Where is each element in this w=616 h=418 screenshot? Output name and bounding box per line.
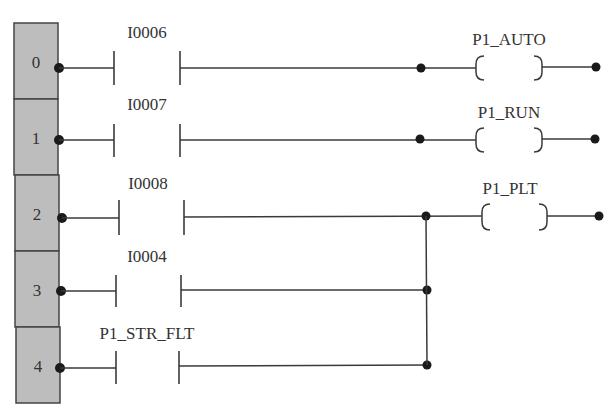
- rung-0: I0006 P1_AUTO: [54, 23, 601, 85]
- rung-number-1: 1: [32, 129, 41, 148]
- output-node-2: [595, 212, 604, 221]
- rung-number-4: 4: [34, 357, 43, 376]
- output-node-0: [592, 63, 601, 72]
- coil-label-0: P1_AUTO: [472, 30, 545, 49]
- junction-node-1: [416, 135, 425, 144]
- coil-2-right: [539, 204, 547, 230]
- rung-number-0: 0: [32, 53, 41, 72]
- parallel-branch-line: [426, 216, 427, 365]
- contact-label-0: I0006: [127, 23, 167, 42]
- contact-label-4: P1_STR_FLT: [100, 324, 195, 343]
- coil-0-left: [476, 56, 484, 80]
- contact-label-2: I0008: [128, 174, 168, 193]
- coil-2-left: [482, 204, 490, 230]
- contact-label-3: I0004: [127, 247, 167, 266]
- coil-label-1: P1_RUN: [478, 103, 540, 122]
- rung-4: P1_STR_FLT: [55, 324, 432, 384]
- rung-number-2: 2: [33, 205, 42, 224]
- junction-node-0: [417, 64, 426, 73]
- rung-2: I0008 P1_PLT: [57, 174, 604, 235]
- coil-0-right: [534, 56, 542, 80]
- coil-label-2: P1_PLT: [482, 179, 538, 198]
- ladder-diagram: 0 1 2 3 4 I0006 P1_AUTO I0007 P1_RUN: [0, 0, 616, 418]
- rung-1: I0007 P1_RUN: [54, 95, 600, 157]
- coil-1-left: [476, 128, 484, 152]
- left-power-rail: 0 1 2 3 4: [14, 23, 60, 403]
- output-node-1: [591, 135, 600, 144]
- rung-3: I0004: [56, 247, 432, 307]
- rung-number-3: 3: [33, 281, 42, 300]
- coil-1-right: [534, 128, 542, 152]
- contact-label-1: I0007: [127, 95, 167, 114]
